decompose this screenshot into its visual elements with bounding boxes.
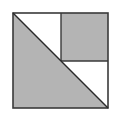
geometry-diagram	[0, 0, 117, 115]
shaded-inner-square	[61, 13, 108, 61]
